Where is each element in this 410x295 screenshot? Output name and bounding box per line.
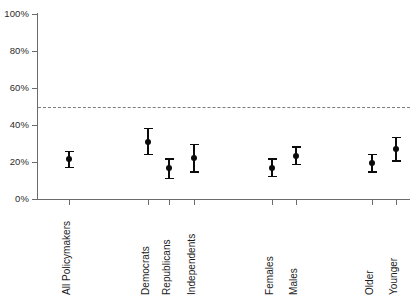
error-bar-cap-lower	[165, 178, 174, 179]
y-axis-tick-label: 40%	[0, 120, 29, 130]
x-axis-tick-label: All Policymakers	[61, 221, 73, 295]
error-bar-cap-lower	[190, 171, 199, 172]
x-axis-tick-label: Democrats	[140, 246, 152, 295]
point-marker	[66, 156, 72, 162]
point-marker	[191, 155, 197, 161]
y-axis-tick	[32, 88, 38, 89]
error-bar-cap-lower	[392, 160, 401, 161]
chart-container: 100%80%60%40%20%0% All PolicymakersDemoc…	[0, 0, 410, 295]
point-marker	[393, 146, 399, 152]
error-bar-cap-upper	[165, 158, 174, 159]
x-axis-line	[37, 199, 410, 200]
y-axis-tick	[32, 14, 38, 15]
error-bar-cap-lower	[292, 164, 301, 165]
x-axis-tick-label: Females	[264, 256, 276, 295]
y-axis-tick-label: 100%	[0, 9, 29, 19]
y-axis-tick	[32, 162, 38, 163]
point-marker	[269, 165, 275, 171]
point-marker	[166, 165, 172, 171]
y-axis-tick-label: 80%	[0, 46, 29, 56]
x-axis-tick-label: Males	[288, 268, 300, 295]
point-marker	[369, 160, 375, 166]
x-axis-tick	[148, 200, 149, 205]
error-bar-cap-lower	[268, 176, 277, 177]
x-axis-tick	[296, 200, 297, 205]
x-axis-tick	[194, 200, 195, 205]
x-axis-tick-label: Independents	[186, 234, 198, 295]
error-bar-cap-upper	[368, 154, 377, 155]
error-bar-cap-upper	[392, 137, 401, 138]
y-axis-tick-label: 0%	[0, 194, 29, 204]
error-bar-cap-lower	[368, 171, 377, 172]
point-marker	[293, 153, 299, 159]
error-bar-cap-upper	[292, 146, 301, 147]
x-axis-tick-label: Younger	[388, 258, 400, 295]
y-axis-tick-label: 60%	[0, 83, 29, 93]
reference-line-50-percent	[38, 107, 410, 108]
x-axis-tick	[69, 200, 70, 205]
x-axis-tick	[169, 200, 170, 205]
error-bar-cap-upper	[190, 144, 199, 145]
y-axis-tick	[32, 51, 38, 52]
error-bar-cap-upper	[268, 158, 277, 159]
error-bar-cap-lower	[65, 167, 74, 168]
x-axis-tick	[396, 200, 397, 205]
y-axis-tick-label: 20%	[0, 157, 29, 167]
x-axis-tick-label: Republicans	[161, 239, 173, 295]
y-axis-tick	[32, 199, 38, 200]
error-bar-cap-upper	[65, 151, 74, 152]
x-axis-tick-label: Older	[364, 270, 376, 295]
point-marker	[145, 139, 151, 145]
y-axis-tick	[32, 125, 38, 126]
x-axis-tick	[372, 200, 373, 205]
x-axis-tick	[272, 200, 273, 205]
error-bar-cap-upper	[144, 128, 153, 129]
error-bar-cap-lower	[144, 154, 153, 155]
